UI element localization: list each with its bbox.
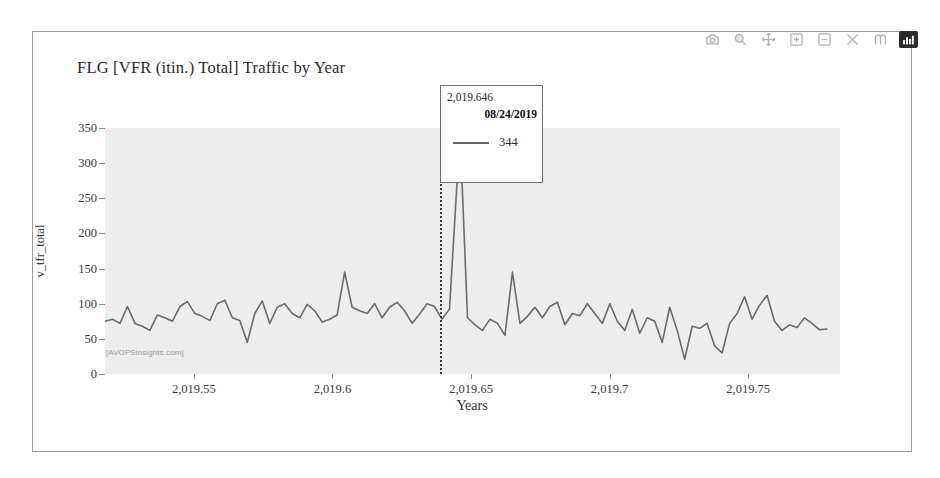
- y-axis: 0 50 100 150 200 250 300 350: [0, 128, 105, 374]
- download-plot-icon[interactable]: [703, 30, 722, 49]
- y-tick-label: 100: [78, 296, 97, 311]
- y-tick-label: 200: [78, 226, 97, 241]
- tooltip-series-swatch: [453, 142, 489, 144]
- x-tick-mark: [471, 374, 472, 379]
- y-tick-label: 50: [85, 331, 98, 346]
- y-tick-label: 300: [78, 156, 97, 171]
- zoom-out-icon[interactable]: [815, 30, 834, 49]
- x-tick-mark: [748, 374, 749, 379]
- x-tick-label: 2,019.6: [314, 382, 352, 397]
- pan-icon[interactable]: [759, 30, 778, 49]
- x-tick-label: 2,019.55: [172, 382, 216, 397]
- x-tick-mark: [332, 374, 333, 379]
- tooltip-value: 344: [499, 135, 518, 150]
- tooltip-date: 08/24/2019: [485, 108, 537, 120]
- y-axis-label: v_tfr_total: [33, 225, 48, 278]
- watermark-label: [AVOPSinsights.com]: [106, 348, 184, 357]
- reset-axes-icon[interactable]: [871, 30, 890, 49]
- zoom-in-icon[interactable]: [787, 30, 806, 49]
- zoom-icon[interactable]: [731, 30, 750, 49]
- hover-tooltip: 2,019.646 08/24/2019 344: [440, 85, 543, 183]
- x-tick-label: 2,019.65: [449, 382, 493, 397]
- y-tick-label: 0: [91, 367, 97, 382]
- plotly-modebar[interactable]: [703, 30, 918, 49]
- x-tick-mark: [194, 374, 195, 379]
- tooltip-x-value: 2,019.646: [447, 91, 493, 103]
- autoscale-icon[interactable]: [843, 30, 862, 49]
- y-tick-label: 350: [78, 121, 97, 136]
- x-tick-label: 2,019.75: [726, 382, 770, 397]
- x-tick-label: 2,019.7: [591, 382, 629, 397]
- x-axis-label: Years: [456, 398, 487, 414]
- x-tick-mark: [610, 374, 611, 379]
- y-tick-label: 150: [78, 261, 97, 276]
- page-title: FLG [VFR (itin.) Total] Traffic by Year: [77, 58, 345, 78]
- plotly-logo-icon[interactable]: [899, 31, 918, 48]
- screenshot-root: FLG [VFR (itin.) Total] Traffic by Year …: [0, 0, 940, 478]
- y-tick-label: 250: [78, 191, 97, 206]
